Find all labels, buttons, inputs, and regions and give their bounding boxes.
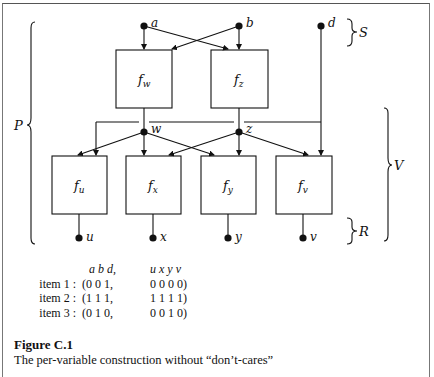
- fw-label: fw: [137, 72, 151, 89]
- table-row: item 2 : (1 1 1, 1 1 1 1): [14, 291, 230, 306]
- header-outputs: u x y v: [140, 262, 230, 277]
- node-x: [149, 234, 156, 241]
- fu-label: fu: [73, 178, 85, 195]
- label-a: a: [151, 16, 158, 30]
- node-y: [224, 234, 231, 241]
- fv-label: fv: [297, 178, 308, 195]
- fz-label: fz: [233, 72, 244, 89]
- figure-caption: The per-variable construction without “d…: [14, 353, 273, 368]
- header-inputs: a b d,: [82, 262, 140, 277]
- table-header: a b d, u x y v: [14, 262, 230, 277]
- node-v: [299, 234, 306, 241]
- label-w: w: [151, 122, 162, 136]
- node-d: [317, 22, 324, 29]
- node-z: [235, 128, 242, 135]
- label-v: v: [310, 230, 317, 244]
- label-b: b: [246, 16, 254, 30]
- table-row: item 1 : (0 0 1, 0 0 0 0): [14, 277, 230, 292]
- fy-label: fy: [222, 178, 234, 195]
- label-z: z: [245, 122, 253, 136]
- node-b: [235, 22, 242, 29]
- brace-label-r: R: [358, 224, 369, 239]
- table-row: item 3 : (0 1 0, 0 0 1 0): [14, 306, 230, 321]
- node-u: [75, 234, 82, 241]
- node-a: [140, 22, 147, 29]
- brace-label-s: S: [359, 25, 368, 40]
- label-y: y: [234, 230, 242, 244]
- label-x: x: [160, 230, 167, 244]
- node-w: [140, 128, 147, 135]
- brace-label-v: V: [394, 158, 405, 173]
- fx-label: fx: [147, 178, 158, 195]
- network-diagram: a b d w z u x y v fw fz fu fx fy fv S P …: [0, 0, 434, 260]
- item-table: a b d, u x y v item 1 : (0 0 1, 0 0 0 0)…: [14, 262, 230, 320]
- brace-label-p: P: [13, 118, 23, 133]
- label-u: u: [86, 230, 94, 244]
- figure-title: Figure C.1: [14, 337, 73, 353]
- label-d: d: [328, 16, 336, 30]
